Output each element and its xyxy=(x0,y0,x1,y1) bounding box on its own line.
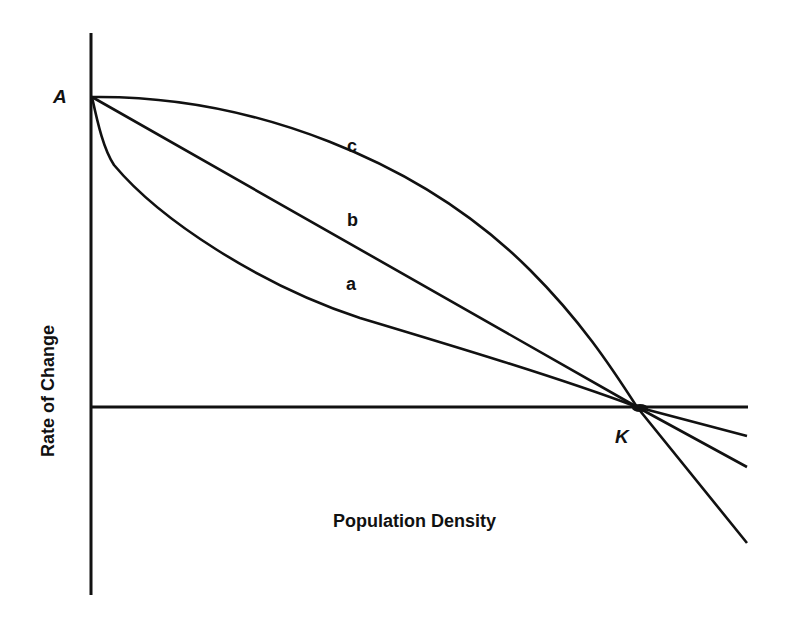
x-axis-label: Population Density xyxy=(333,511,496,532)
curve-label-a: a xyxy=(346,274,356,295)
curve-label-b: b xyxy=(347,210,358,231)
y-axis-label: Rate of Change xyxy=(38,325,59,457)
label-A: A xyxy=(53,86,67,108)
k-intersection-point xyxy=(632,404,648,412)
chart-canvas xyxy=(0,0,792,629)
curve-a xyxy=(92,97,747,436)
label-K: K xyxy=(615,426,629,448)
curve-c xyxy=(92,97,747,543)
curve-label-c: c xyxy=(347,136,357,157)
curve-b xyxy=(92,97,747,467)
